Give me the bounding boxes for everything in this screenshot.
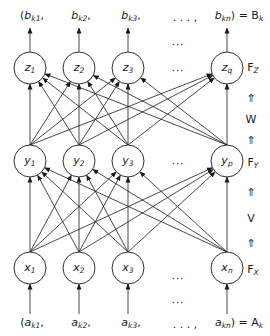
ellipsis-z-layer: ···	[172, 65, 185, 76]
node-label-z2: z2	[74, 61, 85, 75]
weight-matrix-w: W	[246, 113, 257, 126]
layer-label-fy: FY	[248, 156, 259, 170]
node-label-z3: z3	[123, 61, 134, 75]
node-label-y3: y3	[122, 154, 133, 168]
edge-x-to-y	[79, 169, 213, 252]
edge-y-to-z	[93, 75, 227, 145]
output-component-b-kn: bkn) = Bk	[215, 10, 264, 25]
double-up-arrow-icon: ⇑	[246, 186, 255, 199]
layer-label-fx: FX	[247, 263, 258, 277]
edge-x-to-y	[42, 172, 128, 252]
node-label-z1: z1	[25, 61, 36, 75]
ellipsis-y-layer: ···	[172, 158, 185, 169]
weight-matrix-v: V	[247, 212, 255, 225]
input-component-a-k1: (ak1,	[20, 317, 44, 332]
node-label-y1: y1	[24, 154, 35, 168]
node-label-x3: x3	[122, 261, 133, 275]
ellipsis-bottom-arrows: ···	[172, 297, 185, 308]
node-label-y2: y2	[73, 154, 84, 168]
output-component-b-k3: bk3,	[121, 10, 141, 25]
output-component-b-k1: (bk1,	[20, 10, 44, 25]
input-ellipsis: . . . ,	[173, 319, 197, 331]
node-label-zq: zq	[222, 61, 233, 75]
edge-x-to-y	[38, 175, 79, 252]
output-component-b-k2: bk2,	[71, 10, 91, 25]
edge-x-to-y	[30, 172, 116, 252]
edge-y-to-z	[141, 78, 227, 145]
ellipsis-top-arrows: ···	[172, 39, 185, 50]
node-label-xn: xn	[221, 261, 232, 275]
double-up-arrow-icon: ⇑	[246, 134, 255, 147]
edge-y-to-z	[30, 81, 70, 145]
edge-x-to-y	[93, 169, 227, 252]
double-up-arrow-icon: ⇑	[246, 92, 255, 105]
edge-x-to-y	[30, 175, 71, 252]
edge-x-to-y	[87, 175, 128, 252]
input-component-a-k2: ak2,	[71, 317, 90, 332]
double-up-arrow-icon: ⇑	[246, 237, 255, 250]
input-component-a-k3: ak3,	[121, 317, 140, 332]
node-label-yp: yp	[221, 154, 232, 168]
edge-x-to-y	[140, 172, 227, 252]
network-diagram	[0, 0, 270, 336]
edge-y-to-z	[88, 81, 128, 145]
output-ellipsis: . . . ,	[173, 12, 197, 24]
node-label-x1: x1	[24, 261, 35, 275]
input-component-a-kn: akn) = Ak	[215, 317, 263, 332]
layer-label-fz: FZ	[247, 61, 258, 75]
ellipsis-x-layer: ···	[172, 273, 185, 284]
node-label-x2: x2	[73, 261, 84, 275]
neuron-nodes	[14, 52, 243, 284]
edge-y-to-z	[79, 75, 213, 145]
